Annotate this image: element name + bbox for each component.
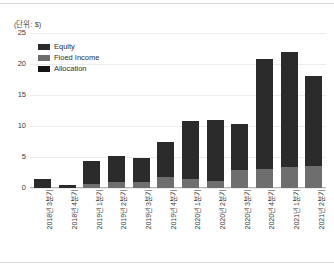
bar-segment[interactable] <box>157 142 174 177</box>
x-axis-tick-label-text: 2020년 4분기 <box>268 190 275 229</box>
x-axis-tick-label: 2021년 2분기 <box>305 190 322 250</box>
legend-item[interactable]: Allocation <box>38 64 99 73</box>
x-axis-tick-labels: 2018년 3분기2018년 4분기2019년 1분기2019년 2분기2019… <box>30 190 326 252</box>
x-axis-tick-label: 2018년 3분기 <box>34 190 51 250</box>
legend-label: Equity <box>54 43 75 51</box>
bar-group[interactable] <box>108 156 125 188</box>
bar-segment[interactable] <box>256 169 273 188</box>
chart-container: (단위: $) 0510152025 EquityFioed IncomeAll… <box>0 0 334 270</box>
bar-segment[interactable] <box>133 158 150 183</box>
y-axis-tick-label: 15 <box>0 91 26 99</box>
gridline <box>30 188 326 189</box>
bar-segment[interactable] <box>305 76 322 165</box>
x-axis-tick-label: 2019년 3분기 <box>133 190 150 250</box>
bar-segment[interactable] <box>182 179 199 188</box>
bar-group[interactable] <box>281 52 298 188</box>
x-axis-tick-label-text: 2019년 4분기 <box>169 190 176 229</box>
bar-segment[interactable] <box>59 185 76 188</box>
bar-group[interactable] <box>231 124 248 188</box>
legend-swatch-allocation <box>38 66 50 72</box>
bar-segment[interactable] <box>305 166 322 188</box>
y-axis-tick-label: 10 <box>0 122 26 130</box>
x-axis-tick-label-text: 2018년 3분기 <box>46 190 53 229</box>
bar-group[interactable] <box>256 59 273 188</box>
y-axis-tick-label: 5 <box>0 153 26 161</box>
bar-segment[interactable] <box>34 179 51 188</box>
y-axis-tick-label: 25 <box>0 29 26 37</box>
bar-group[interactable] <box>34 179 51 188</box>
bar-group[interactable] <box>133 158 150 188</box>
x-axis-tick-label: 2018년 4분기 <box>59 190 76 250</box>
bar-segment[interactable] <box>182 121 199 179</box>
x-axis-tick-label: 2021년 1분기 <box>281 190 298 250</box>
bar-segment[interactable] <box>83 161 100 183</box>
bar-group[interactable] <box>157 142 174 188</box>
bar-segment[interactable] <box>108 182 125 188</box>
chart-legend: EquityFioed IncomeAllocation <box>38 42 99 75</box>
x-axis-tick-label: 2019년 1분기 <box>83 190 100 250</box>
bar-segment[interactable] <box>281 52 298 167</box>
x-axis-tick-label: 2020년 4분기 <box>256 190 273 250</box>
x-axis-tick-label: 2020년 1분기 <box>182 190 199 250</box>
legend-item[interactable]: Fioed Income <box>38 53 99 62</box>
x-axis-tick-label-text: 2019년 1분기 <box>95 190 102 229</box>
x-axis-tick-label: 2020년 2분기 <box>207 190 224 250</box>
bar-segment[interactable] <box>108 156 125 181</box>
y-axis-tick-label: 0 <box>0 184 26 192</box>
x-axis-tick-label-text: 2019년 3분기 <box>145 190 152 229</box>
bar-segment[interactable] <box>133 182 150 188</box>
x-axis-tick-label-text: 2021년 1분기 <box>293 190 300 229</box>
bar-group[interactable] <box>83 161 100 188</box>
legend-swatch-equity <box>38 44 50 50</box>
top-divider <box>0 3 334 4</box>
x-axis-tick-label: 2019년 2분기 <box>108 190 125 250</box>
bar-group[interactable] <box>59 185 76 188</box>
bar-group[interactable] <box>182 121 199 188</box>
bar-segment[interactable] <box>281 167 298 188</box>
y-axis-tick-labels: 0510152025 <box>0 33 26 188</box>
bar-segment[interactable] <box>207 120 224 181</box>
x-axis-tick-label-text: 2020년 1분기 <box>194 190 201 229</box>
y-axis-tick-label: 20 <box>0 60 26 68</box>
x-axis-tick-label-text: 2020년 3분기 <box>243 190 250 229</box>
legend-label: Fioed Income <box>54 54 99 62</box>
bar-group[interactable] <box>305 76 322 188</box>
x-axis-tick-label-text: 2020년 2분기 <box>219 190 226 229</box>
x-axis-tick-label-text: 2019년 2분기 <box>120 190 127 229</box>
bar-segment[interactable] <box>83 184 100 188</box>
bar-segment[interactable] <box>157 177 174 188</box>
bar-group[interactable] <box>207 120 224 188</box>
bar-segment[interactable] <box>231 170 248 188</box>
bar-segment[interactable] <box>256 59 273 169</box>
bottom-divider <box>0 262 334 263</box>
x-axis-tick-label: 2019년 4분기 <box>157 190 174 250</box>
legend-item[interactable]: Equity <box>38 42 99 51</box>
bar-segment[interactable] <box>231 124 248 170</box>
x-axis-tick-label-text: 2021년 2분기 <box>317 190 324 229</box>
x-axis-tick-label-text: 2018년 4분기 <box>71 190 78 229</box>
legend-swatch-fixed-income <box>38 55 50 61</box>
bar-segment[interactable] <box>207 181 224 188</box>
legend-label: Allocation <box>54 65 87 73</box>
x-axis-tick-label: 2020년 3분기 <box>231 190 248 250</box>
